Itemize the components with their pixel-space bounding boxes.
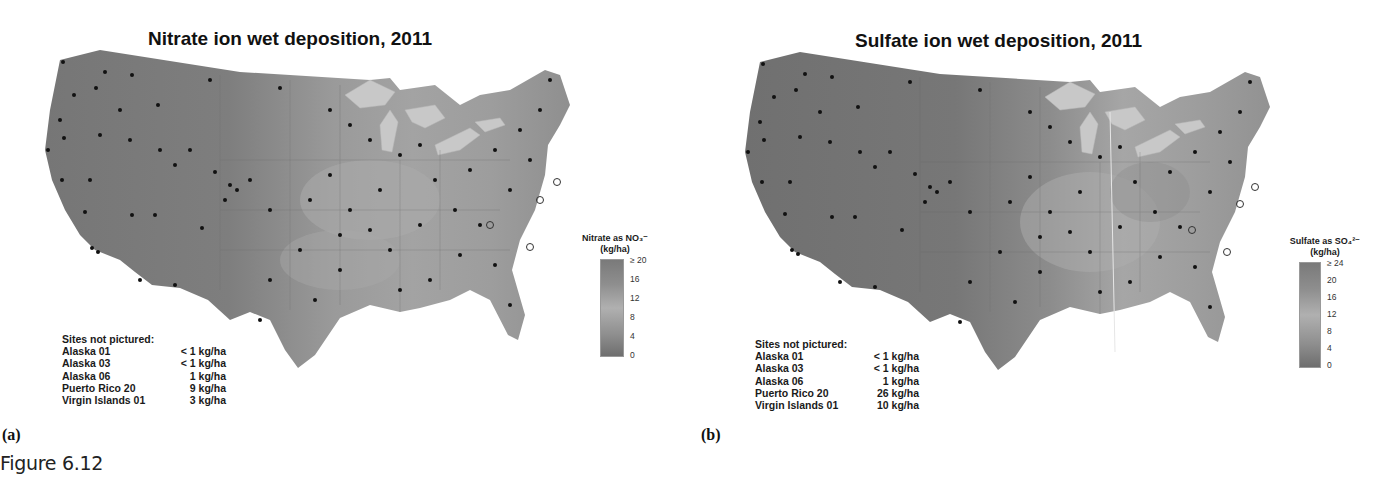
legend-tick: 20 [1327, 275, 1336, 285]
legend-tick: ≥ 20 [630, 255, 646, 265]
legend-color-bar [1299, 262, 1321, 368]
sulfate-map-panel: Sulfate ion wet deposition, 2011 [735, 0, 1374, 420]
legend-title: Nitrate as NO₃⁻ [560, 233, 670, 244]
table-row: Alaska 01< 1 kg/ha [62, 345, 226, 357]
figure-caption: Figure 6.12 [0, 452, 103, 474]
sites-not-pictured-table: Sites not pictured: Alaska 01< 1 kg/ha A… [755, 338, 919, 411]
legend-tick: 0 [630, 350, 635, 360]
sites-not-pictured-table: Sites not pictured: Alaska 01< 1 kg/ha A… [62, 333, 226, 406]
legend-tick: 8 [1327, 326, 1332, 336]
legend-unit: (kg/ha) [1275, 247, 1374, 258]
legend-title: Sulfate as SO₄²⁻ [1275, 236, 1374, 247]
table-row: Virgin Islands 013 kg/ha [62, 394, 226, 406]
legend-color-bar [600, 259, 624, 357]
legend-tick: 12 [1327, 309, 1336, 319]
table-row: Alaska 01< 1 kg/ha [755, 350, 919, 362]
legend-tick: 8 [630, 312, 635, 322]
sites-not-pictured-header: Sites not pictured: [755, 338, 919, 350]
nitrate-map-title: Nitrate ion wet deposition, 2011 [148, 28, 432, 50]
legend-tick: 12 [630, 293, 639, 303]
panel-label-b: (b) [701, 426, 721, 444]
table-row: Virgin Islands 0110 kg/ha [755, 399, 919, 411]
table-row: Puerto Rico 2026 kg/ha [755, 387, 919, 399]
sites-not-pictured-header: Sites not pictured: [62, 333, 226, 345]
nitrate-legend: Nitrate as NO₃⁻ (kg/ha) ≥ 20 16 12 8 4 0 [560, 233, 670, 359]
legend-tick: 16 [1327, 292, 1336, 302]
sulfate-map-title: Sulfate ion wet deposition, 2011 [855, 30, 1142, 52]
table-row: Alaska 061 kg/ha [755, 375, 919, 387]
table-row: Alaska 061 kg/ha [62, 370, 226, 382]
panel-label-a: (a) [2, 426, 21, 444]
sulfate-legend: Sulfate as SO₄²⁻ (kg/ha) ≥ 24 20 16 12 8… [1275, 236, 1374, 370]
legend-tick: 4 [630, 331, 635, 341]
legend-tick: 0 [1327, 360, 1332, 370]
legend-tick: 16 [630, 274, 639, 284]
table-row: Puerto Rico 209 kg/ha [62, 382, 226, 394]
legend-unit: (kg/ha) [560, 244, 670, 255]
us-landmass [745, 52, 1270, 370]
legend-tick: 4 [1327, 343, 1332, 353]
table-row: Alaska 03< 1 kg/ha [755, 362, 919, 374]
table-row: Alaska 03< 1 kg/ha [62, 357, 226, 369]
legend-tick: ≥ 24 [1327, 258, 1343, 268]
nitrate-map-panel: Nitrate ion wet deposition, 2011 [0, 0, 690, 420]
